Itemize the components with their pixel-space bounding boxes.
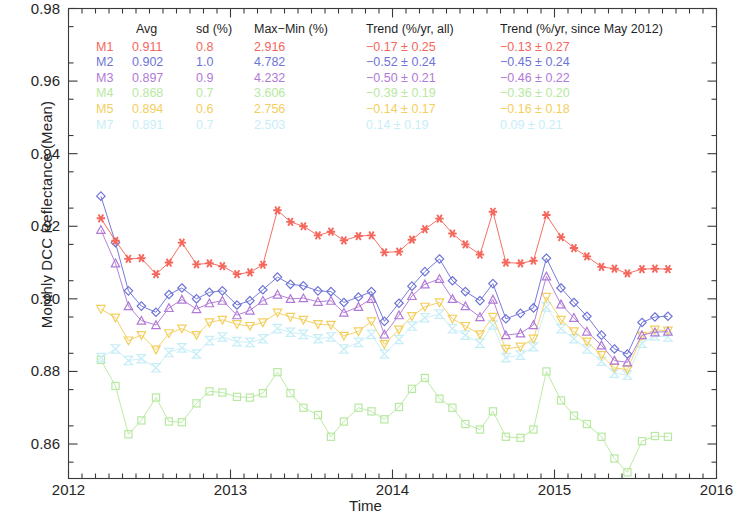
y-axis-label: Monthly DCC Reflectance (Mean) xyxy=(38,65,55,365)
cell-avg: 0.902 xyxy=(126,55,190,71)
cell-avg: 0.891 xyxy=(126,118,190,134)
cell-tag: M4 xyxy=(96,86,126,102)
cell-avg: 0.897 xyxy=(126,71,190,87)
header-sd: sd (%) xyxy=(190,22,248,40)
cell-sd: 0.7 xyxy=(190,118,248,134)
y-tick-label: 0.94 xyxy=(2,145,60,162)
statistics-table-body: M10.9110.82.916−0.17 ± 0.25−0.13 ± 0.27M… xyxy=(96,40,663,134)
y-tick-label: 0.96 xyxy=(2,72,60,89)
cell-trend-since: −0.16 ± 0.18 xyxy=(494,102,663,118)
x-tick-label: 2012 xyxy=(29,481,109,498)
x-tick-label: 2014 xyxy=(353,481,433,498)
header-trend-all: Trend (%/yr, all) xyxy=(358,22,494,40)
cell-tag: M5 xyxy=(96,102,126,118)
cell-sd: 0.7 xyxy=(190,86,248,102)
x-tick-label: 2013 xyxy=(191,481,271,498)
cell-trend-since: 0.09 ± 0.21 xyxy=(494,118,663,134)
data-series-group xyxy=(97,192,672,476)
table-row: M50.8940.62.756−0.14 ± 0.17−0.16 ± 0.18 xyxy=(96,102,663,118)
header-trend-since: Trend (%/yr, since May 2012) xyxy=(494,22,663,40)
series-m1 xyxy=(97,206,672,278)
cell-trend-since: −0.13 ± 0.27 xyxy=(494,40,663,56)
cell-trend-since: −0.46 ± 0.22 xyxy=(494,71,663,87)
table-row: M20.9021.04.782−0.52 ± 0.24−0.45 ± 0.24 xyxy=(96,55,663,71)
x-tick-label: 2016 xyxy=(677,481,738,498)
cell-avg: 0.868 xyxy=(126,86,190,102)
series-m4 xyxy=(97,356,671,476)
cell-trend-all: −0.39 ± 0.19 xyxy=(358,86,494,102)
x-axis-label: Time xyxy=(0,497,731,514)
cell-maxmin: 4.232 xyxy=(248,71,358,87)
cell-maxmin: 2.756 xyxy=(248,102,358,118)
table-row: M70.8910.72.5030.14 ± 0.190.09 ± 0.21 xyxy=(96,118,663,134)
cell-sd: 1.0 xyxy=(190,55,248,71)
header-max-min: Max−Min (%) xyxy=(248,22,358,40)
y-tick-label: 0.98 xyxy=(2,0,60,17)
table-header-row: Avg sd (%) Max−Min (%) Trend (%/yr, all)… xyxy=(96,22,663,40)
table-row: M30.8970.94.232−0.50 ± 0.21−0.46 ± 0.22 xyxy=(96,71,663,87)
cell-trend-all: −0.14 ± 0.17 xyxy=(358,102,494,118)
cell-maxmin: 2.503 xyxy=(248,118,358,134)
cell-tag: M1 xyxy=(96,40,126,56)
cell-trend-all: −0.50 ± 0.21 xyxy=(358,71,494,87)
statistics-legend: Avg sd (%) Max−Min (%) Trend (%/yr, all)… xyxy=(96,22,663,133)
cell-trend-all: −0.17 ± 0.25 xyxy=(358,40,494,56)
cell-sd: 0.9 xyxy=(190,71,248,87)
cell-tag: M2 xyxy=(96,55,126,71)
header-tag xyxy=(96,22,126,40)
cell-sd: 0.8 xyxy=(190,40,248,56)
cell-sd: 0.6 xyxy=(190,102,248,118)
cell-trend-all: 0.14 ± 0.19 xyxy=(358,118,494,134)
cell-maxmin: 2.916 xyxy=(248,40,358,56)
y-tick-label: 0.88 xyxy=(2,362,60,379)
cell-tag: M3 xyxy=(96,71,126,87)
table-row: M40.8680.73.606−0.39 ± 0.19−0.36 ± 0.20 xyxy=(96,86,663,102)
y-tick-label: 0.86 xyxy=(2,435,60,452)
cell-trend-since: −0.36 ± 0.20 xyxy=(494,86,663,102)
statistics-table: Avg sd (%) Max−Min (%) Trend (%/yr, all)… xyxy=(96,22,663,133)
header-avg: Avg xyxy=(126,22,190,40)
cell-tag: M7 xyxy=(96,118,126,134)
cell-trend-since: −0.45 ± 0.24 xyxy=(494,55,663,71)
y-tick-label: 0.92 xyxy=(2,217,60,234)
cell-trend-all: −0.52 ± 0.24 xyxy=(358,55,494,71)
cell-maxmin: 3.606 xyxy=(248,86,358,102)
table-row: M10.9110.82.916−0.17 ± 0.25−0.13 ± 0.27 xyxy=(96,40,663,56)
y-tick-label: 0.90 xyxy=(2,290,60,307)
x-tick-label: 2015 xyxy=(515,481,595,498)
cell-avg: 0.911 xyxy=(126,40,190,56)
cell-maxmin: 4.782 xyxy=(248,55,358,71)
cell-avg: 0.894 xyxy=(126,102,190,118)
